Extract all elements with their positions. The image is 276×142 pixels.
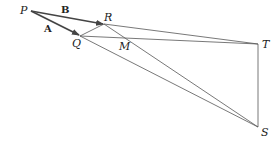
vector-label-B: B	[61, 4, 69, 15]
label-T: T	[262, 38, 271, 51]
label-R: R	[103, 11, 112, 24]
label-P: P	[19, 4, 28, 17]
segment-QS	[80, 36, 258, 127]
label-M: M	[118, 40, 131, 53]
vector-diagram: P R Q M T S B A	[0, 0, 276, 142]
segment-QT	[80, 36, 258, 44]
label-Q: Q	[72, 37, 81, 50]
label-S: S	[261, 126, 269, 139]
vector-label-A: A	[43, 23, 52, 34]
segment-QR	[80, 24, 104, 36]
